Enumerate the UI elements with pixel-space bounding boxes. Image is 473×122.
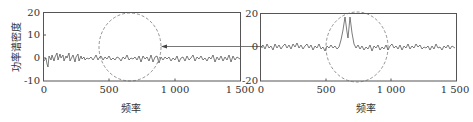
arrow-head-icon bbox=[161, 45, 167, 49]
left-xtick-0: 0 bbox=[41, 84, 47, 95]
right-ytick-0: 0 bbox=[252, 41, 258, 52]
connector-arrow bbox=[161, 45, 260, 49]
left-ytick-0: 0 bbox=[34, 52, 40, 63]
left-ytick-neg10: -10 bbox=[24, 75, 40, 86]
left-ytick-20: 20 bbox=[27, 7, 40, 18]
left-xtick-500: 500 bbox=[99, 84, 118, 95]
right-xtick-1500: 1 500 bbox=[441, 84, 470, 95]
right-ytick-neg20: -20 bbox=[242, 75, 258, 86]
right-xtick-500: 500 bbox=[316, 84, 335, 95]
left-xtick-1000: 1 000 bbox=[161, 84, 190, 95]
right-series-line bbox=[261, 17, 455, 51]
right-xtick-1000: 1 000 bbox=[377, 84, 406, 95]
right-chart: 20 0 -20 0 500 1 000 1 500 频率 bbox=[242, 8, 469, 114]
right-xlabel: 频率 bbox=[356, 102, 376, 114]
right-ytick-20: 20 bbox=[245, 8, 258, 19]
left-ylabel: 功率谱密度 bbox=[10, 22, 22, 72]
right-xtick-0: 0 bbox=[258, 84, 264, 95]
figure: 20 10 0 -10 0 500 1 000 1 500 频率 功率谱密度 2… bbox=[0, 0, 473, 122]
left-series-line bbox=[44, 53, 240, 67]
left-ytick-10: 10 bbox=[27, 29, 40, 40]
left-highlight-circle bbox=[99, 13, 161, 81]
left-xlabel: 频率 bbox=[121, 102, 141, 114]
left-chart: 20 10 0 -10 0 500 1 000 1 500 频率 功率谱密度 bbox=[10, 7, 254, 114]
